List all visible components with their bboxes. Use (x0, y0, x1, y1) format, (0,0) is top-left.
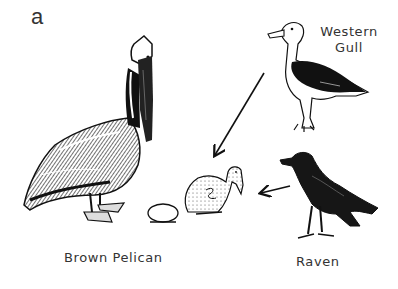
gull-label-line2: Gull (318, 40, 380, 56)
pelican-label: Brown Pelican (64, 250, 163, 266)
egg-illustration (148, 204, 178, 222)
gull-label-line1: Western (318, 24, 380, 40)
raven-label: Raven (296, 254, 340, 270)
gull-to-chick-arrow (215, 73, 264, 155)
gull-label: Western Gull (318, 24, 380, 57)
pelican-illustration (24, 36, 153, 222)
raven-to-chick-arrow (261, 186, 290, 193)
raven-illustration (280, 152, 378, 238)
pelican-chick-illustration (185, 167, 243, 214)
figure-panel: a (0, 0, 398, 289)
